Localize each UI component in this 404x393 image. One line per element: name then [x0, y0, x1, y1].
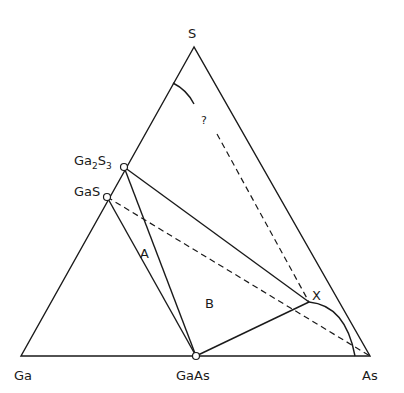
label-x: X	[312, 288, 321, 303]
label-ga: Ga	[14, 368, 32, 383]
tie-line-ga2s3-gaas	[124, 167, 196, 356]
label-region-b: B	[205, 296, 214, 311]
label-ga2s3: Ga2S3	[74, 153, 112, 171]
ternary-phase-diagram: S Ga As Ga2S3 GaS GaAs X A B ?	[0, 0, 404, 393]
boundary-curve-x-as	[309, 302, 355, 356]
triangle-outline	[21, 47, 370, 356]
dashed-line-gas-as	[107, 197, 370, 356]
point-gas	[104, 194, 111, 201]
tie-line-ga2s3-x	[124, 167, 309, 302]
boundary-arc-near-s	[173, 83, 194, 104]
label-s: S	[188, 26, 196, 41]
label-gaas: GaAs	[176, 368, 210, 383]
label-region-a: A	[140, 246, 149, 261]
label-gas: GaS	[74, 184, 100, 199]
dashed-line-upper-to-x	[217, 134, 309, 302]
point-ga2s3	[121, 164, 128, 171]
tie-line-gas-gaas	[107, 197, 196, 356]
point-gaas	[193, 353, 200, 360]
label-unknown: ?	[201, 114, 207, 127]
label-as: As	[362, 368, 378, 383]
